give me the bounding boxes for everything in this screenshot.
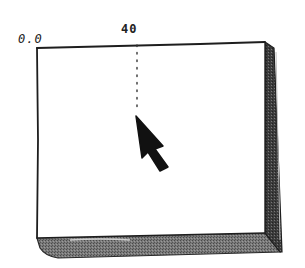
screen-sketch: [0, 0, 305, 268]
origin-label: 0.0: [18, 32, 43, 46]
x-marker-label: 40: [121, 22, 137, 36]
right-edge: [265, 42, 282, 252]
diagram-canvas: 0.0 40: [0, 0, 305, 268]
